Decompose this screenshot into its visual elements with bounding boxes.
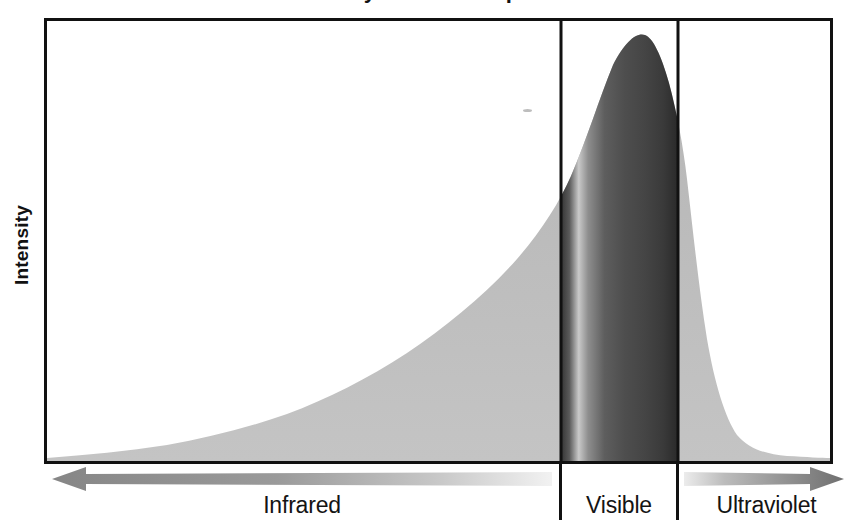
left-arrow-icon: [52, 466, 552, 492]
spectrum-curve: [47, 21, 830, 461]
y-axis-label: Intensity: [2, 150, 42, 340]
band-label-ultraviolet: Ultraviolet: [684, 492, 849, 519]
scan-artifact-speck: [523, 109, 532, 112]
chart-title: Blackbody Radiation Spectrum: [0, 0, 857, 14]
blackbody-spectrum-figure: Blackbody Radiation Spectrum Intensity: [0, 0, 857, 527]
chart-title-text: Blackbody Radiation Spectrum: [263, 0, 594, 2]
spectrum-band-bar: Infrared Visible Ultraviolet: [0, 464, 857, 527]
right-arrow-icon: [684, 466, 844, 492]
y-axis-label-text: Intensity: [11, 205, 33, 285]
band-label-visible: Visible: [562, 492, 676, 519]
band-label-infrared: Infrared: [52, 492, 552, 519]
plot-area: [44, 18, 833, 464]
